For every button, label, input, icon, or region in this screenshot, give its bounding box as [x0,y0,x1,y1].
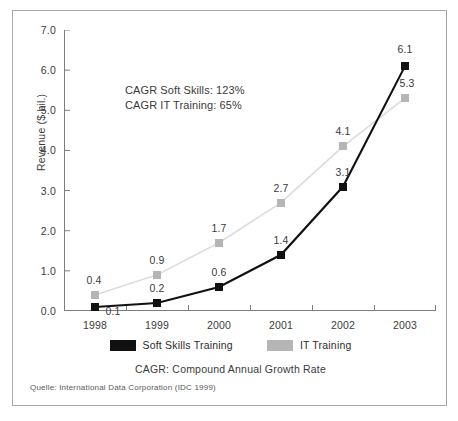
data-point-marker [153,271,161,279]
y-tick-marks [64,30,70,311]
x-tick-label: 1998 [83,319,107,331]
x-tick-label: 2003 [393,319,417,331]
legend-label-soft-skills: Soft Skills Training [143,339,233,351]
cagr-soft-skills-text: CAGR Soft Skills: 123% [125,83,245,98]
y-tick-label: 1.0 [41,265,56,277]
data-point-label: 1.4 [273,234,288,246]
data-point-marker [339,183,347,191]
source-note: Quelle: International Data Corporation (… [30,383,216,392]
data-point-label: 1.7 [211,222,226,234]
data-point-marker [91,291,99,299]
data-point-label: 2.7 [273,182,288,194]
series-lines [64,30,436,311]
data-point-label: 6.1 [397,43,412,55]
data-point-label: 0.2 [149,282,164,294]
data-point-label: 0.1 [105,305,120,317]
chart-legend: Soft Skills Training IT Training [13,339,448,351]
legend-swatch-icon-soft-skills [110,340,136,351]
y-tick-label: 2.0 [41,225,56,237]
data-point-label: 0.4 [86,274,101,286]
data-point-label: 0.9 [149,254,164,266]
data-point-label: 0.6 [211,266,226,278]
data-point-marker [277,251,285,259]
data-point-label: 5.3 [399,77,414,89]
x-tick-label: 2001 [269,319,293,331]
x-tick-label: 2002 [331,319,355,331]
line-it-training [95,98,405,295]
y-tick-label: 3.0 [41,185,56,197]
data-point-marker [277,199,285,207]
x-tick-label: 2000 [207,319,231,331]
data-point-label: 4.1 [335,125,350,137]
legend-swatch-icon-it-training [267,340,293,351]
legend-item-it-training: IT Training [267,339,352,351]
data-point-label: 3.1 [335,166,350,178]
data-point-marker [401,62,409,70]
cagr-definition-note: CAGR: Compound Annual Growth Rate [13,363,448,375]
plot-area: 0.01.02.03.04.05.06.07.0 199819992000200… [64,30,436,311]
data-point-marker [401,94,409,102]
chart-figure: Revenue ($ bil.) 0.01.02.03.04.05.06.07.… [12,10,447,406]
y-tick-label: 4.0 [41,144,56,156]
data-point-marker [153,299,161,307]
data-point-marker [215,239,223,247]
y-tick-label: 0.0 [41,305,56,317]
legend-label-it-training: IT Training [300,339,352,351]
data-point-marker [91,303,99,311]
y-tick-label: 5.0 [41,104,56,116]
legend-item-soft-skills: Soft Skills Training [110,339,233,351]
y-tick-label: 6.0 [41,64,56,76]
cagr-annotation: CAGR Soft Skills: 123% CAGR IT Training:… [125,83,245,113]
x-tick-label: 1999 [145,319,169,331]
data-point-marker [339,142,347,150]
cagr-it-training-text: CAGR IT Training: 65% [125,98,245,113]
data-point-marker [215,283,223,291]
y-tick-label: 7.0 [41,24,56,36]
